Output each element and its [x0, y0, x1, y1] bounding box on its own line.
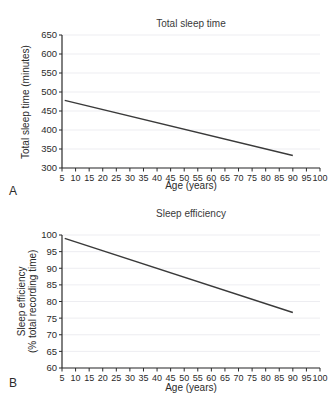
y-tick-label: 550 — [41, 67, 57, 78]
x-axis-label-a: Age (years) — [62, 180, 320, 191]
plot-area-b: 6065707580859095100510152025303540455055… — [0, 200, 334, 401]
y-tick-label: 90 — [46, 263, 57, 274]
y-tick-label: 80 — [46, 296, 57, 307]
plot-area-a: 3003504004505005506006505101520253035404… — [0, 0, 334, 200]
y-tick-label: 100 — [41, 229, 57, 240]
panel-total-sleep-time: Total sleep time Total sleep time (minut… — [0, 0, 334, 200]
panel-letter-b: B — [9, 376, 17, 390]
y-tick-label: 450 — [41, 105, 57, 116]
y-tick-label: 300 — [41, 162, 57, 173]
y-tick-label: 650 — [41, 29, 57, 40]
panel-sleep-efficiency: Sleep efficiency Sleep efficiency (% tot… — [0, 200, 334, 401]
y-tick-label: 400 — [41, 124, 57, 135]
y-tick-label: 70 — [46, 329, 57, 340]
y-tick-label: 85 — [46, 279, 57, 290]
y-tick-label: 75 — [46, 313, 57, 324]
y-tick-label: 600 — [41, 48, 57, 59]
data-line — [65, 100, 293, 155]
panel-letter-a: A — [9, 184, 17, 198]
x-axis-label-b: Age (years) — [62, 382, 320, 393]
y-tick-label: 500 — [41, 86, 57, 97]
y-tick-label: 350 — [41, 143, 57, 154]
y-tick-label: 95 — [46, 246, 57, 257]
y-tick-label: 60 — [46, 362, 57, 373]
y-tick-label: 65 — [46, 346, 57, 357]
